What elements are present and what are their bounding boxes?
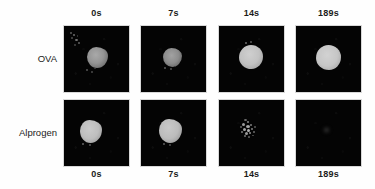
column-label-top-0s: 0s [64, 8, 129, 19]
column-label-bottom-7s: 7s [141, 169, 206, 180]
panel-ova-14s [219, 26, 284, 92]
panel-alprogen-7s [141, 100, 206, 166]
blob-halo-specks [80, 142, 98, 149]
faint-speck-cluster [69, 31, 85, 49]
panel-ova-189s [296, 26, 361, 92]
panel-ova-0s [64, 26, 129, 92]
blob-halo-specks [84, 68, 98, 76]
column-label-bottom-0s: 0s [64, 169, 129, 180]
cell-blob [159, 119, 182, 143]
panel-alprogen-189s [296, 100, 361, 166]
panel-alprogen-0s [64, 100, 129, 166]
cell-blob [163, 48, 182, 67]
cell-blob [87, 47, 108, 68]
blob-halo-specks [243, 41, 255, 46]
cell-blob [80, 120, 102, 143]
column-label-top-189s: 189s [296, 8, 361, 19]
microscopy-figure: 0s 7s 14s 189s OVA Alprogen [0, 0, 375, 189]
column-label-bottom-189s: 189s [296, 169, 361, 180]
blob-halo-specks [161, 142, 177, 149]
row-label-alprogen: Alprogen [19, 127, 57, 139]
cell-blob [316, 45, 341, 70]
panel-alprogen-14s [219, 100, 284, 166]
panel-ova-7s [141, 26, 206, 92]
cell-blob [239, 45, 263, 69]
column-label-top-14s: 14s [219, 8, 284, 19]
column-label-top-7s: 7s [141, 8, 206, 19]
column-label-bottom-14s: 14s [219, 169, 284, 180]
fragmented-cell-signal [238, 118, 262, 142]
residual-trace-signal [322, 126, 331, 134]
row-label-ova: OVA [38, 53, 57, 65]
blob-halo-specks [162, 66, 178, 73]
